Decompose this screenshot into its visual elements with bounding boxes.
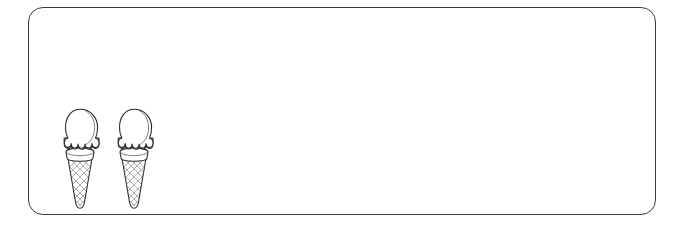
answer-box[interactable]: Empty bordered answer area containing tw… — [28, 7, 656, 215]
screenshot-root: Empty bordered answer area containing tw… — [0, 0, 680, 230]
panel-description: Empty bordered answer area containing tw… — [29, 8, 30, 9]
ice-cream-cone-icon[interactable]: Ice cream cone with a single rounded sco… — [111, 108, 157, 210]
ice-cream-cone-icon[interactable]: Ice cream cone with a single rounded sco… — [57, 108, 103, 210]
ice-cream-cone-group: Ice cream cone with a single rounded sco… — [57, 108, 177, 213]
